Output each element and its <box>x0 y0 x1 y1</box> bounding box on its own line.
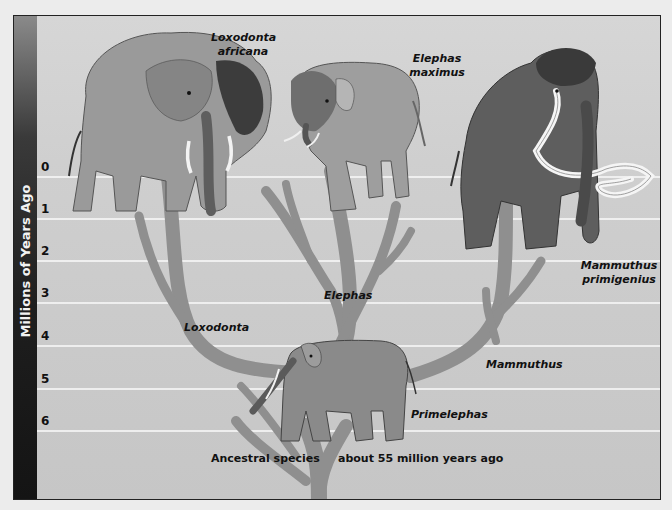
label-line: Loxodonta <box>211 31 275 45</box>
label-line: africana <box>211 45 275 59</box>
label-mammuthus-primigenius: Mammuthus primigenius <box>579 259 659 287</box>
label-line: Elephas <box>407 52 467 66</box>
asian-elephant-illustration <box>284 62 425 211</box>
label-elephas-maximus: Elephas maximus <box>407 52 467 80</box>
label-mammuthus: Mammuthus <box>486 358 563 372</box>
label-line: maximus <box>407 66 467 80</box>
label-loxodonta: Loxodonta <box>184 321 249 335</box>
tree-and-elephants <box>14 16 660 499</box>
woolly-mammoth-illustration <box>451 48 651 249</box>
label-primelephas: Primelephas <box>411 408 488 422</box>
label-age: about 55 million years ago <box>338 452 503 466</box>
label-loxodonta-africana: Loxodonta africana <box>211 31 275 59</box>
label-line: primigenius <box>579 273 659 287</box>
label-ancestral-species: Ancestral species <box>211 452 320 466</box>
label-elephas: Elephas <box>324 289 372 303</box>
african-elephant-illustration <box>69 32 271 211</box>
phylogeny-diagram: Millions of Years Ago 0 1 2 3 4 5 6 <box>13 15 661 500</box>
label-line: Mammuthus <box>579 259 659 273</box>
